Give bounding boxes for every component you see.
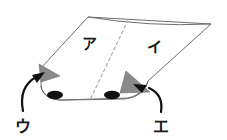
figure-canvas: ア イ ウ エ [0, 0, 227, 140]
region-label-right: イ [147, 38, 162, 56]
arrow-to-right-flap [149, 88, 161, 112]
right-black-dot [104, 91, 120, 99]
region-label-left: ア [82, 35, 97, 53]
callout-label-left: ウ [15, 117, 31, 136]
left-black-dot [47, 91, 63, 99]
arrow-to-left-flap [22, 77, 36, 111]
fold-diagram-svg: ア イ ウ エ [0, 0, 227, 140]
callout-label-right: エ [153, 117, 169, 136]
